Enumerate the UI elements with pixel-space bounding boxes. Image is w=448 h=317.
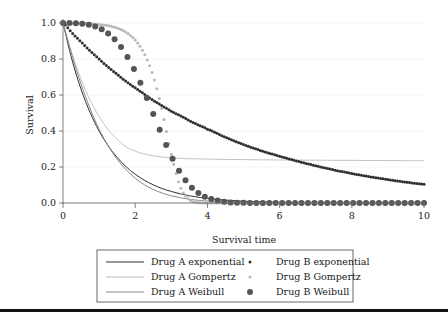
- y-tick-label: 0.4: [41, 125, 56, 136]
- series-marker: [182, 191, 185, 194]
- series-marker: [144, 95, 150, 101]
- legend-dot-swatch: [249, 261, 252, 264]
- series-marker: [83, 44, 86, 47]
- series-marker: [176, 168, 182, 174]
- series-marker: [177, 180, 180, 183]
- x-tick-label: 4: [204, 210, 210, 221]
- y-tick-label: 0.2: [41, 161, 56, 172]
- series-marker: [92, 24, 98, 30]
- series-marker: [131, 36, 134, 39]
- series-marker: [170, 153, 173, 156]
- series-marker: [137, 80, 143, 86]
- series-marker: [105, 30, 111, 36]
- series-marker: [187, 197, 190, 200]
- series-marker: [90, 51, 93, 54]
- series-marker: [163, 142, 169, 148]
- series-marker: [136, 42, 139, 45]
- survival-curves-figure: 0.00.20.40.60.81.00246810 Survival time …: [0, 0, 448, 317]
- series-marker: [131, 66, 137, 72]
- legend: Drug A exponentialDrug A GompertzDrug A …: [97, 250, 370, 302]
- series-marker: [73, 20, 79, 26]
- legend-dot-swatch: [249, 276, 252, 279]
- series-marker: [172, 163, 175, 166]
- series-marker: [221, 199, 227, 205]
- series-marker: [202, 194, 208, 200]
- series-marker: [112, 70, 115, 73]
- y-axis-title: Survival: [24, 95, 35, 135]
- series-marker: [107, 66, 110, 69]
- series-marker: [71, 32, 74, 35]
- series-marker: [141, 49, 144, 52]
- series-marker: [74, 34, 77, 37]
- legend-item-label: Drug B Weibull: [276, 286, 349, 297]
- series-marker: [81, 42, 84, 45]
- series-marker: [79, 21, 85, 27]
- series-marker: [146, 58, 149, 61]
- series-marker: [124, 80, 127, 83]
- survival-chart: 0.00.20.40.60.81.00246810 Survival time …: [0, 0, 448, 317]
- series-marker: [184, 195, 187, 198]
- series-marker: [112, 36, 118, 42]
- series-marker: [99, 26, 105, 32]
- series-marker: [66, 26, 69, 29]
- x-axis-title: Survival time: [212, 234, 277, 245]
- series-marker: [143, 53, 146, 56]
- series-marker: [170, 156, 176, 162]
- series-marker: [208, 196, 214, 202]
- series-marker: [134, 39, 137, 42]
- bottom-rule: [0, 309, 448, 312]
- legend-item-label: Drug B exponential: [276, 256, 370, 267]
- series-marker: [150, 111, 156, 117]
- series-marker: [126, 32, 129, 35]
- series-marker: [98, 58, 101, 61]
- series-marker: [86, 46, 89, 49]
- legend-item-label: Drug A exponential: [151, 256, 244, 267]
- y-tick-label: 0.0: [41, 197, 56, 208]
- x-tick-label: 10: [418, 210, 430, 221]
- series-marker: [86, 22, 92, 28]
- series-marker: [148, 64, 151, 67]
- series-marker: [118, 44, 124, 50]
- x-tick-label: 0: [60, 210, 66, 221]
- series-marker: [69, 29, 72, 32]
- y-tick-label: 1.0: [41, 17, 56, 28]
- series-marker: [95, 55, 98, 58]
- series-marker: [117, 74, 120, 77]
- x-tick-label: 8: [349, 210, 355, 221]
- series-marker: [228, 199, 234, 205]
- series-marker: [153, 79, 156, 82]
- y-tick-label: 0.6: [41, 89, 56, 100]
- series-marker: [158, 97, 161, 100]
- y-tick-label: 0.8: [41, 53, 56, 64]
- series-marker: [110, 68, 113, 71]
- series-marker: [423, 183, 426, 186]
- series-marker: [195, 190, 201, 196]
- series-marker: [119, 76, 122, 79]
- series-marker: [124, 54, 130, 60]
- x-tick-label: 2: [132, 210, 138, 221]
- x-tick-label: 6: [277, 210, 283, 221]
- series-marker: [151, 71, 154, 74]
- series-marker: [93, 53, 96, 56]
- series-marker: [189, 185, 195, 191]
- series-marker: [88, 49, 91, 52]
- series-marker: [163, 118, 166, 121]
- series-marker: [165, 130, 168, 133]
- series-marker: [179, 187, 182, 190]
- series-marker: [102, 62, 105, 65]
- series-marker: [155, 87, 158, 90]
- legend-item-label: Drug B Gompertz: [276, 271, 361, 282]
- series-marker: [160, 107, 163, 110]
- series-marker: [66, 20, 72, 26]
- series-marker: [100, 60, 103, 63]
- series-marker: [76, 37, 79, 40]
- legend-dot-swatch: [247, 289, 253, 295]
- series-marker: [78, 39, 81, 42]
- series-marker: [129, 34, 132, 37]
- series-marker: [114, 72, 117, 75]
- series-marker: [122, 78, 125, 81]
- series-marker: [182, 177, 188, 183]
- series-marker: [139, 45, 142, 48]
- legend-item-label: Drug A Gompertz: [151, 271, 236, 282]
- series-marker: [105, 64, 108, 67]
